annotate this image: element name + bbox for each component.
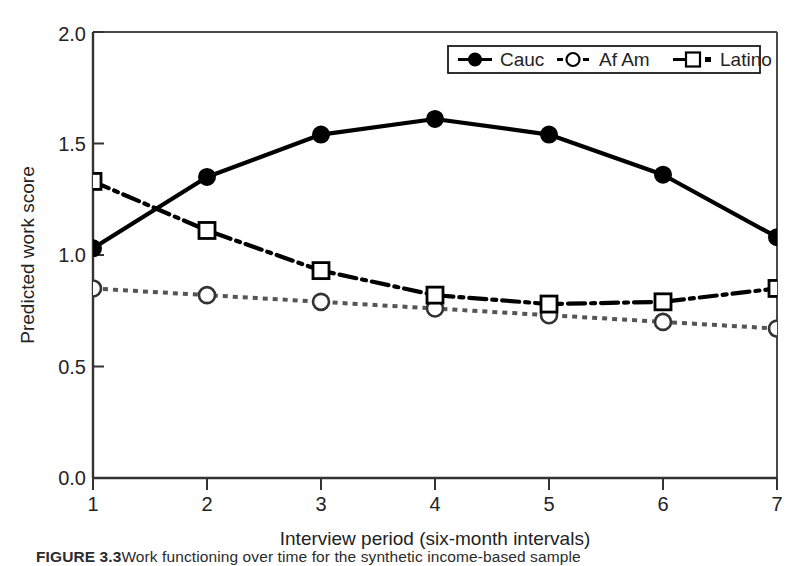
x-tick-label-5: 5 xyxy=(543,493,554,515)
data-point-filled-circle xyxy=(769,229,785,245)
figure-caption: FIGURE 3.3Work functioning over time for… xyxy=(36,548,796,566)
series-line xyxy=(93,119,777,248)
series-line xyxy=(93,181,777,304)
x-tick-label-7: 7 xyxy=(771,493,782,515)
x-tick-label-1: 1 xyxy=(87,493,98,515)
series-latino xyxy=(85,173,785,312)
data-point-open-square xyxy=(199,222,215,238)
x-axis-ticks xyxy=(93,478,777,490)
legend-label-af-am: Af Am xyxy=(599,49,650,70)
y-axis-title: Predicted work score xyxy=(17,166,38,343)
data-point-filled-circle xyxy=(427,111,443,127)
open-circle-marker-icon xyxy=(567,53,580,66)
data-point-open-circle xyxy=(85,280,101,296)
data-point-open-square xyxy=(655,294,671,310)
x-tick-label-6: 6 xyxy=(657,493,668,515)
y-tick-label-0: 0.0 xyxy=(58,467,86,489)
legend-entry-latino: Latino xyxy=(673,49,772,70)
x-tick-label-3: 3 xyxy=(315,493,326,515)
legend-label-latino: Latino xyxy=(720,49,772,70)
data-point-open-square xyxy=(769,280,785,296)
data-point-open-circle xyxy=(769,321,785,337)
data-point-open-circle xyxy=(655,314,671,330)
figure-number: FIGURE 3.3 xyxy=(36,548,121,565)
data-point-filled-circle xyxy=(541,127,557,143)
data-point-filled-circle xyxy=(655,167,671,183)
filled-circle-marker-icon xyxy=(469,54,481,66)
data-point-open-square xyxy=(541,296,557,312)
open-square-marker-icon xyxy=(686,53,700,67)
data-point-filled-circle xyxy=(85,240,101,256)
data-point-filled-circle xyxy=(199,169,215,185)
data-point-open-square xyxy=(85,173,101,189)
x-tick-label-4: 4 xyxy=(429,493,440,515)
y-tick-label-3: 1.5 xyxy=(58,133,86,155)
data-point-open-circle xyxy=(199,287,215,303)
x-axis-tick-labels: 1 2 3 4 5 6 7 xyxy=(87,493,782,515)
legend-label-cauc: Cauc xyxy=(500,49,544,70)
chart-legend: Cauc Af Am Latino xyxy=(448,46,772,73)
figure-caption-text: Work functioning over time for the synth… xyxy=(121,548,580,565)
plot-frame xyxy=(93,32,777,478)
data-series-layer xyxy=(85,111,785,337)
data-point-filled-circle xyxy=(313,127,329,143)
series-cauc xyxy=(85,111,785,256)
data-point-open-square xyxy=(427,287,443,303)
y-axis-tick-labels: 0.0 0.5 1.0 1.5 2.0 xyxy=(58,23,86,489)
data-point-open-square xyxy=(313,263,329,279)
dash-segment-icon xyxy=(705,57,711,62)
x-tick-label-2: 2 xyxy=(201,493,212,515)
y-tick-label-4: 2.0 xyxy=(58,23,86,45)
data-point-open-circle xyxy=(313,294,329,310)
y-tick-label-1: 0.5 xyxy=(58,356,86,378)
x-axis-title: Interview period (six-month intervals) xyxy=(280,528,590,549)
y-tick-label-2: 1.0 xyxy=(58,244,86,266)
